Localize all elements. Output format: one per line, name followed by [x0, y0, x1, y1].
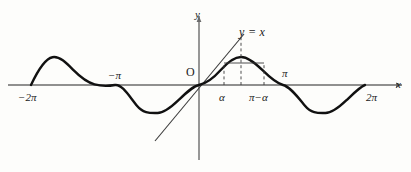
tick-label-neg-pi: −π	[108, 70, 121, 81]
tick-label-pi: π	[282, 68, 288, 79]
tick-label-alpha: α	[219, 92, 225, 103]
tick-label-pi-minus-alpha: π−α	[249, 92, 268, 103]
line-equation-label: y = x	[239, 26, 265, 38]
sine-plot-svg	[0, 0, 411, 172]
tick-label-two-pi: 2π	[366, 92, 377, 103]
y-axis-label: y	[195, 9, 200, 20]
origin-label: O	[186, 66, 195, 78]
tick-label-neg-two-pi: −2π	[18, 92, 36, 103]
x-axis-label: x	[396, 79, 401, 90]
figure-container: −2π −π π 2π α π−α x y O y = x	[0, 0, 411, 172]
